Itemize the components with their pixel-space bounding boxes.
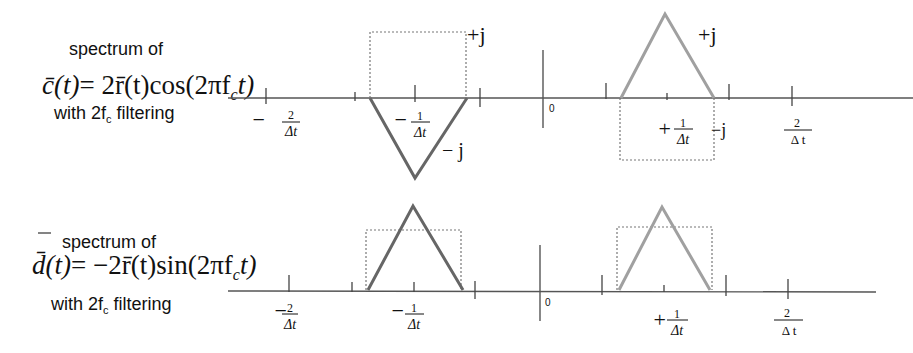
bottom-ticks	[289, 275, 788, 299]
svg-text:−: −	[392, 298, 404, 323]
top-tick-label-pos2: 2 Δ t	[784, 116, 812, 147]
top-formula-sub: c	[231, 86, 238, 103]
bottom-tick-label-pos2: 2 Δ t	[774, 306, 803, 338]
svg-text:1: 1	[674, 307, 680, 321]
bottom-formula-lhs: d̄(t)	[32, 250, 71, 280]
svg-text:Δt: Δt	[676, 132, 690, 147]
svg-text:Δt: Δt	[670, 323, 684, 338]
svg-text:c̄(t)= 2r̄(t)cos(2πfct): c̄(t)= 2r̄(t)cos(2πfct)	[42, 70, 254, 103]
svg-text:−: −	[395, 107, 407, 132]
spectrum-diagram: spectrum of c̄(t)= 2r̄(t)cos(2πfct) with…	[0, 0, 913, 353]
top-zero-label: 0	[549, 103, 555, 114]
top-left-box-label: +j	[467, 22, 486, 47]
svg-text:d̄(t)= −2r̄(t)sin(2πfct): d̄(t)= −2r̄(t)sin(2πfct)	[32, 250, 256, 283]
svg-text:Δ t: Δ t	[782, 323, 797, 338]
svg-text:Δt: Δt	[283, 317, 297, 332]
bottom-formula-rhs: = −2r̄(t)sin(2πf	[71, 250, 233, 280]
svg-text:Δt: Δt	[407, 317, 421, 332]
top-panel: spectrum of c̄(t)= 2r̄(t)cos(2πfct) with…	[42, 14, 913, 178]
bottom-panel: spectrum of d̄(t)= −2r̄(t)sin(2πfct) wit…	[32, 206, 876, 338]
svg-text:2: 2	[794, 116, 800, 130]
top-tick-label-pos1: + 1 Δt	[659, 116, 693, 147]
svg-text:+: +	[654, 307, 666, 332]
svg-text:Δt: Δt	[284, 124, 298, 139]
bottom-tick-label-neg2: − 2 Δt	[275, 298, 298, 332]
svg-text:2: 2	[784, 306, 790, 320]
svg-text:−: −	[253, 107, 265, 132]
top-right-triangle-label: +j	[698, 22, 717, 47]
top-tick-label-neg2: − 2 Δt	[253, 107, 300, 139]
svg-text:2: 2	[287, 301, 293, 315]
svg-text:1: 1	[411, 301, 417, 315]
svg-text:1: 1	[417, 109, 423, 123]
bottom-left-triangle	[368, 206, 463, 290]
top-left-dotted-box	[370, 32, 466, 98]
bottom-tick-label-pos1: + 1 Δt	[654, 307, 688, 338]
bottom-caption-line3: with 2fc filtering	[50, 294, 172, 316]
bottom-freq-axis	[228, 291, 876, 292]
bottom-formula-sub: c	[233, 266, 240, 283]
top-formula-tail: t)	[238, 70, 255, 100]
bottom-tick-label-neg1: − 1 Δt	[392, 298, 424, 332]
top-caption-line3: with 2fc filtering	[53, 103, 175, 125]
bottom-caption-line1: spectrum of	[62, 232, 157, 252]
top-right-box-label: −j	[711, 120, 726, 140]
svg-text:Δt: Δt	[413, 125, 427, 140]
svg-text:2: 2	[288, 108, 294, 122]
svg-text:+: +	[659, 116, 671, 141]
bottom-formula: d̄(t)= −2r̄(t)sin(2πfct)	[32, 250, 256, 283]
top-left-triangle-label: − j	[442, 139, 464, 162]
top-formula: c̄(t)= 2r̄(t)cos(2πfct)	[42, 70, 254, 103]
bottom-formula-tail: t)	[240, 250, 257, 280]
svg-text:1: 1	[680, 116, 686, 130]
bottom-right-triangle	[619, 207, 710, 290]
top-caption-line1: spectrum of	[69, 39, 164, 59]
top-tick-label-neg1: − 1 Δt	[395, 107, 430, 140]
bottom-right-dotted-box	[617, 227, 712, 290]
top-formula-rhs: = 2r̄(t)cos(2πf	[79, 70, 230, 100]
bottom-zero-label: 0	[545, 297, 551, 308]
top-formula-lhs: c̄(t)	[42, 70, 79, 100]
svg-text:Δ t: Δ t	[791, 132, 806, 147]
